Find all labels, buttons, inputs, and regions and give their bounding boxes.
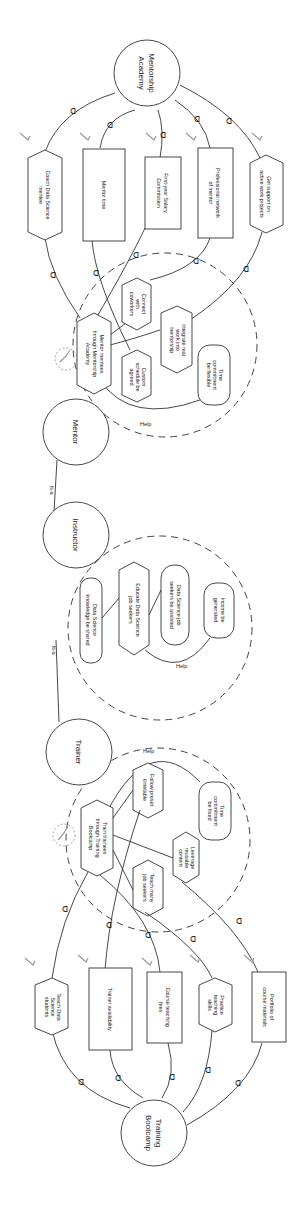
dependum-label: Commission xyxy=(156,178,162,208)
softgoal-time-flexible[interactable]: Time commitment be flexible xyxy=(198,345,230,405)
softgoal-time-fixed[interactable]: Time commitment be fixed xyxy=(199,782,231,840)
actor-training-bootcamp[interactable]: Training Bootcamp xyxy=(121,1100,187,1166)
actor-label: Mentorship xyxy=(147,53,156,93)
dependum-label: First-year Salary xyxy=(163,173,169,213)
dependum-get-support[interactable]: Get support on active work projects xyxy=(250,155,283,233)
dependum-course-teaching-fees[interactable]: Course teaching fees xyxy=(147,972,182,1043)
goal-model-diagram: ᗡ ᗡ ᗡ ᗡ ᗡ ᗡ ᗡ ᗡ ᗡ ᗡ Mentorship Academy C… xyxy=(0,0,302,1231)
goal-job-seekers-assisted[interactable]: Data Science job seekers be assisted xyxy=(161,565,189,645)
task-mentor-mentees[interactable]: Mentor mentees through Mentorship Academ… xyxy=(77,313,111,394)
dependum-professional-network[interactable]: Professional network of mentor xyxy=(198,148,233,238)
actor-mentor[interactable]: Mentor xyxy=(43,399,109,465)
svg-text:Help: Help xyxy=(176,663,187,669)
task-teach-many[interactable]: Teach many job seekers xyxy=(133,860,163,916)
dependum-label: fees xyxy=(158,1002,164,1012)
dependum-coach-data-science[interactable]: Coach Data Science mentee xyxy=(28,150,62,240)
element-label: Data Science xyxy=(92,604,98,636)
is-a-label: Is-a xyxy=(51,645,57,655)
actor-label: Bootcamp xyxy=(144,1115,153,1152)
actor-instructor[interactable]: Instructor xyxy=(43,502,109,568)
svg-text:ᗡ: ᗡ xyxy=(93,269,99,278)
task-connect-coworkers[interactable]: Connect with coworkers xyxy=(122,278,151,330)
dependum-trainer-availability[interactable]: Trainer availability xyxy=(89,968,132,1050)
element-label: job seekers xyxy=(128,595,134,624)
task-integrate-real-work[interactable]: Integrate real work into mentorship xyxy=(161,306,192,373)
element-label: be fixed xyxy=(207,802,213,821)
check-markers-top xyxy=(20,133,262,140)
dependum-label: Portfolio of xyxy=(269,994,275,1020)
element-label: Teach many xyxy=(149,873,155,902)
task-leverage-content[interactable]: Leverage reusable content xyxy=(173,832,199,883)
actor-mentorship-academy[interactable]: Mentorship Academy xyxy=(114,40,180,106)
svg-text:ᗡ: ᗡ xyxy=(70,107,76,116)
element-label: Mentor mentees xyxy=(99,335,105,374)
actor-label: Trainer xyxy=(74,739,83,764)
svg-text:Help: Help xyxy=(140,421,151,427)
element-label: be flexible xyxy=(206,363,212,387)
dependum-label: Course teaching xyxy=(165,987,171,1026)
actor-label: Academy xyxy=(137,56,146,89)
dependum-label: active work projects xyxy=(259,170,265,218)
softgoal-knowledge-shared[interactable]: Data Science knowledge be shared xyxy=(80,578,102,663)
element-label: job seekers xyxy=(142,873,148,902)
task-educate-job-seekers[interactable]: Educate Data Science job seekers xyxy=(119,562,149,655)
svg-text:ᗡ: ᗡ xyxy=(194,115,200,124)
actor-label: Mentor xyxy=(71,420,80,445)
dependum-label: of mentor xyxy=(208,182,214,205)
dependum-label: course materials xyxy=(262,987,268,1027)
svg-text:ᗡ: ᗡ xyxy=(106,921,112,930)
trainer-dashed-check xyxy=(53,824,75,846)
svg-text:ᗡ: ᗡ xyxy=(236,917,242,926)
svg-text:ᗡ: ᗡ xyxy=(193,257,199,266)
svg-text:ᗡ: ᗡ xyxy=(169,1073,175,1082)
svg-text:ᗡ: ᗡ xyxy=(235,1079,241,1088)
dependum-label: Coach Data Science xyxy=(45,170,51,219)
dependum-label: Trainer availability xyxy=(107,987,113,1031)
element-label: agreed xyxy=(129,369,135,386)
is-a-label: Is-a xyxy=(49,485,55,495)
element-label: generated xyxy=(213,598,219,622)
element-label: Educate Data Science xyxy=(135,583,141,636)
element-label: Follow preset xyxy=(149,774,155,807)
element-label: mentorship xyxy=(169,327,175,354)
dependum-practice-teaching[interactable]: Practice teaching skills xyxy=(199,978,232,1032)
svg-text:ᗡ: ᗡ xyxy=(160,131,166,140)
svg-text:ᗡ: ᗡ xyxy=(62,905,68,914)
svg-text:ᗡ: ᗡ xyxy=(107,121,113,130)
element-label: Train trainees xyxy=(102,822,108,855)
task-follow-timetable[interactable]: Follow preset timetable xyxy=(133,763,163,818)
element-label: coworkers xyxy=(129,292,135,317)
dependum-label: students xyxy=(44,997,50,1018)
element-label: Data Science job xyxy=(176,585,182,626)
dependum-label: Mentor time xyxy=(101,181,107,209)
actor-label: Training xyxy=(154,1119,163,1148)
check-markers-bottom xyxy=(25,955,254,965)
svg-text:ᗡ: ᗡ xyxy=(190,935,196,944)
svg-text:ᗡ: ᗡ xyxy=(133,251,139,260)
dependum-portfolio[interactable]: Portfolio of course materials xyxy=(252,972,286,1042)
dependum-label: Get support on xyxy=(266,176,272,212)
element-label: through Mentorship xyxy=(92,331,98,377)
svg-text:ᗡ: ᗡ xyxy=(115,1074,121,1083)
element-label: knowledge be shared xyxy=(85,594,91,645)
dependum-teach-students[interactable]: Teach Data Science students xyxy=(35,978,68,1035)
element-label: timetable xyxy=(142,779,148,801)
dependum-first-year-salary[interactable]: First-year Salary Commission xyxy=(145,157,181,229)
element-label: Bootcamp xyxy=(88,826,94,850)
task-train-trainees[interactable]: Train trainees through Training Bootcamp xyxy=(81,800,113,876)
svg-text:ᗡ: ᗡ xyxy=(145,931,151,940)
svg-text:ᗡ: ᗡ xyxy=(243,265,249,274)
element-label: content xyxy=(178,849,184,867)
softgoal-custom-schedule[interactable]: Custom schedule be agreed xyxy=(122,350,151,402)
svg-text:ᗡ: ᗡ xyxy=(50,271,56,280)
softgoal-income-generated[interactable]: Income be generated xyxy=(204,583,234,638)
actor-trainer[interactable]: Trainer xyxy=(46,719,112,785)
dependum-mentor-time[interactable]: Mentor time xyxy=(83,149,125,241)
svg-text:Help: Help xyxy=(143,748,154,754)
element-label: Income be xyxy=(220,597,226,622)
actor-label: Instructor xyxy=(71,518,80,552)
element-label: through Training xyxy=(95,819,101,858)
svg-text:ᗡ: ᗡ xyxy=(205,1066,211,1075)
element-label: seekers be assisted xyxy=(169,581,175,629)
dependum-label: skills xyxy=(207,999,213,1011)
